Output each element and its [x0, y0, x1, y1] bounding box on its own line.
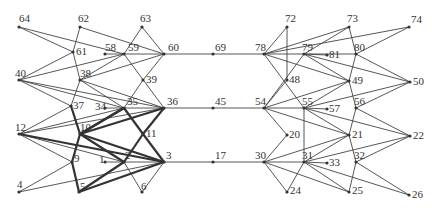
node-label-57: 57 [329, 102, 341, 114]
node-label-17: 17 [215, 149, 227, 161]
edge-56-22 [356, 108, 410, 136]
edge-61-40 [19, 52, 73, 80]
node-39 [141, 78, 144, 81]
edge-12-2 [19, 134, 124, 162]
node-label-78: 78 [255, 41, 267, 53]
node-label-73: 73 [347, 12, 359, 24]
node-26 [407, 193, 410, 196]
node-label-81: 81 [329, 48, 340, 60]
node-label-4: 4 [17, 178, 23, 190]
node-label-50: 50 [413, 75, 425, 87]
node-63 [140, 25, 143, 28]
node-21 [347, 133, 350, 136]
node-label-38: 38 [80, 67, 92, 79]
node-label-61: 61 [76, 45, 87, 57]
node-35 [122, 106, 125, 109]
node-60 [162, 52, 165, 55]
node-label-25: 25 [352, 184, 364, 196]
node-label-33: 33 [329, 156, 341, 168]
edge-59-40 [19, 54, 124, 80]
node-label-48: 48 [289, 73, 301, 85]
node-label-26: 26 [412, 188, 424, 200]
node-label-72: 72 [285, 12, 296, 24]
node-label-64: 64 [19, 12, 31, 24]
node-label-58: 58 [105, 41, 117, 53]
node-label-24: 24 [290, 184, 302, 196]
node-label-74: 74 [411, 13, 423, 25]
node-61 [71, 50, 74, 53]
node-label-10: 10 [80, 121, 92, 133]
node-label-11: 11 [146, 127, 157, 139]
node-label-9: 9 [74, 152, 80, 164]
node-4 [17, 190, 20, 193]
node-label-62: 62 [78, 12, 89, 24]
edge-40-37 [19, 80, 71, 106]
edge-35-12 [19, 108, 124, 134]
edge-55-21 [304, 108, 349, 135]
node-label-20: 20 [289, 128, 301, 140]
edge-62-60 [80, 27, 164, 54]
node-36 [162, 106, 165, 109]
edge-37-12 [19, 106, 71, 134]
node-25 [347, 190, 350, 193]
node-label-12: 12 [15, 121, 26, 133]
edge-64-61 [19, 27, 73, 52]
edge-31-25 [304, 162, 349, 192]
node-label-80: 80 [354, 41, 366, 53]
node-24 [285, 190, 288, 193]
node-label-69: 69 [215, 41, 227, 53]
node-label-22: 22 [413, 129, 424, 141]
node-label-37: 37 [73, 99, 85, 111]
node-73 [347, 25, 350, 28]
node-label-56: 56 [354, 95, 366, 107]
edge-79-49 [304, 54, 349, 81]
edge-48-54 [264, 80, 287, 108]
node-label-35: 35 [127, 95, 139, 107]
node-label-34: 34 [95, 100, 107, 112]
network-diagram: 6462636158596040383937343536121011912345… [0, 0, 432, 212]
node-label-55: 55 [302, 95, 314, 107]
node-64 [17, 25, 20, 28]
node-label-60: 60 [168, 41, 180, 53]
edge-63-60 [142, 27, 164, 54]
node-11 [141, 132, 144, 135]
edge-32-26 [356, 162, 409, 195]
node-label-30: 30 [255, 149, 267, 161]
node-label-40: 40 [15, 67, 27, 79]
node-label-59: 59 [128, 41, 140, 53]
node-label-79: 79 [302, 41, 314, 53]
node-label-45: 45 [215, 95, 227, 107]
node-label-49: 49 [352, 74, 364, 86]
node-label-5: 5 [80, 180, 86, 192]
node-72 [285, 25, 288, 28]
node-label-31: 31 [302, 149, 313, 161]
node-label-63: 63 [140, 12, 152, 24]
node-label-1: 1 [99, 153, 105, 165]
node-label-54: 54 [255, 95, 267, 107]
edge-2-6 [124, 162, 142, 192]
node-62 [78, 25, 81, 28]
node-label-21: 21 [352, 128, 363, 140]
node-label-32: 32 [354, 149, 365, 161]
highlighted-edge-9-5 [72, 162, 79, 192]
highlighted-edge-5-2 [79, 162, 124, 192]
node-49 [347, 79, 350, 82]
node-label-6: 6 [141, 180, 147, 192]
node-74 [407, 25, 410, 28]
node-22 [408, 134, 411, 137]
node-label-39: 39 [146, 73, 158, 85]
node-label-2: 2 [125, 149, 131, 161]
node-59 [122, 52, 125, 55]
edge-80-50 [356, 54, 410, 82]
node-label-3: 3 [166, 149, 172, 161]
node-50 [408, 80, 411, 83]
edge-9-4 [19, 162, 72, 192]
node-label-36: 36 [167, 95, 179, 107]
